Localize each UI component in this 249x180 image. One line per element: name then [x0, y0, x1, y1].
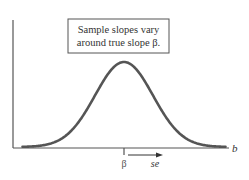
sampling-distribution-diagram: b Sample slopes vary around true slope β…: [0, 0, 249, 180]
se-arrow-head: [156, 153, 163, 158]
se-label: se: [151, 158, 160, 169]
normal-curve: [23, 62, 226, 147]
beta-label: β: [121, 158, 126, 169]
x-axis-label: b: [232, 142, 238, 154]
annotation-line-1: Sample slopes vary: [78, 24, 160, 35]
annotation-line-2: around true slope β.: [77, 37, 161, 48]
